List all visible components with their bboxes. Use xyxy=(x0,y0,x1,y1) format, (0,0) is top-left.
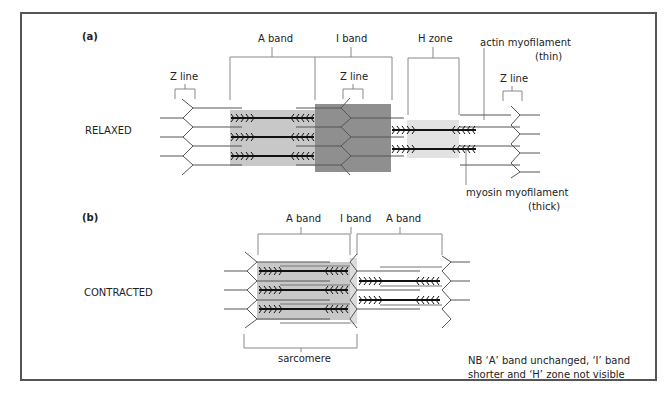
relaxed-label: RELAXED xyxy=(85,125,132,136)
z-line-left-label: Z line xyxy=(170,71,198,82)
actin-label-2: (thin) xyxy=(535,51,562,62)
a-band-right-bracket xyxy=(351,227,442,255)
z-line-mid-label: Z line xyxy=(340,71,368,82)
sarcomere-label: sarcomere xyxy=(278,353,331,364)
z-line-right-label: Z line xyxy=(500,73,528,84)
z-line-mid-bracket xyxy=(343,84,363,99)
h-zone-bracket xyxy=(408,47,459,115)
i-band-shade xyxy=(315,104,391,172)
panel-b-label: (b) xyxy=(82,212,98,223)
a-band-label: A band xyxy=(258,33,293,44)
z-line-left-bracket xyxy=(175,84,195,99)
a-band-right-label: A band xyxy=(386,213,421,224)
z-line-contracted-right xyxy=(442,256,451,328)
myosin-label-2: (thick) xyxy=(528,201,560,212)
panel-b: (b) CONTRACTED A band I band A band sarc… xyxy=(82,212,630,380)
z-line-left xyxy=(182,99,193,175)
actin-label-1: actin myofilament xyxy=(480,37,571,48)
h-zone-shade xyxy=(407,120,459,158)
sarcomere-diagram: (a) RELAXED A band I band H zone actin m… xyxy=(0,0,672,399)
z-line-right xyxy=(511,106,520,178)
sarcomere-bracket xyxy=(244,334,357,352)
z-line-right-bracket xyxy=(503,86,522,101)
note-line-1: NB ‘A’ band unchanged, ‘I’ band xyxy=(468,355,630,366)
panel-a: (a) RELAXED A band I band H zone actin m… xyxy=(82,31,571,212)
i-band-label-contracted: I band xyxy=(340,213,371,224)
a-band-bracket xyxy=(230,47,315,100)
a-band-left-bracket xyxy=(258,227,350,255)
i-band-label: I band xyxy=(336,33,367,44)
panel-a-label: (a) xyxy=(82,31,98,42)
h-zone-label: H zone xyxy=(418,33,453,44)
contracted-label: CONTRACTED xyxy=(84,287,153,298)
a-band-left-label: A band xyxy=(286,213,321,224)
myosin-label-1: myosin myofilament xyxy=(466,187,568,198)
note-line-2: shorter and ‘H’ zone not visible xyxy=(468,369,625,380)
